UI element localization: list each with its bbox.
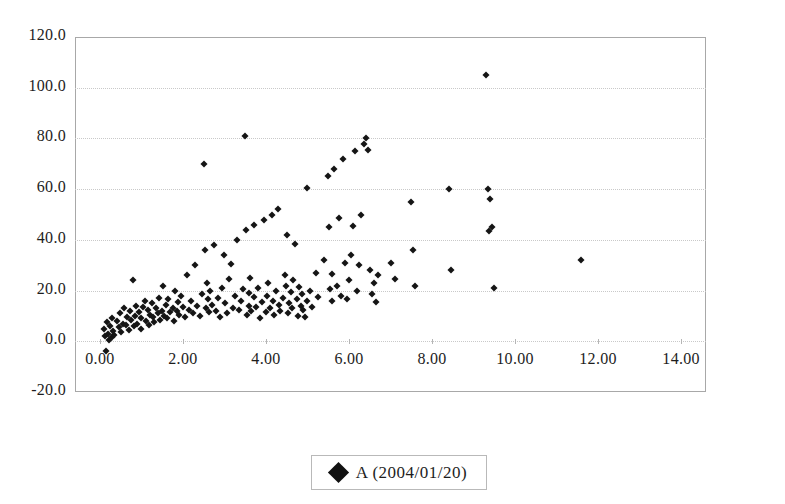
x-tick-mark: [183, 339, 184, 344]
x-tick-mark: [349, 339, 350, 344]
x-tick-mark: [100, 339, 101, 344]
y-tick-label: 60.0: [0, 178, 66, 196]
legend-label: A (2004/01/20): [356, 463, 467, 483]
diamond-marker-icon: [328, 462, 349, 483]
x-tick-label: 10.00: [475, 350, 555, 368]
gridline: [75, 138, 706, 139]
gridline: [75, 341, 706, 342]
gridline: [75, 240, 706, 241]
y-tick-label: 120.0: [0, 26, 66, 44]
scatter-chart: 120.0100.080.060.040.020.00.0-20.0 0.002…: [0, 0, 785, 504]
x-tick-label: 4.00: [226, 350, 306, 368]
gridline: [75, 189, 706, 190]
gridline: [75, 291, 706, 292]
y-tick-label: 0.0: [0, 330, 66, 348]
x-tick-mark: [515, 339, 516, 344]
x-tick-label: 12.00: [558, 350, 638, 368]
gridline: [75, 88, 706, 89]
y-tick-label: 20.0: [0, 280, 66, 298]
x-tick-mark: [266, 339, 267, 344]
x-tick-label: 2.00: [143, 350, 223, 368]
x-tick-label: 14.00: [641, 350, 721, 368]
x-tick-mark: [598, 339, 599, 344]
x-tick-mark: [681, 339, 682, 344]
x-tick-label: 8.00: [392, 350, 472, 368]
plot-area: [75, 37, 706, 392]
chart-legend: A (2004/01/20): [311, 455, 487, 490]
x-tick-label: 6.00: [309, 350, 389, 368]
y-tick-label: -20.0: [0, 381, 66, 399]
y-tick-label: 100.0: [0, 77, 66, 95]
x-tick-mark: [432, 339, 433, 344]
y-tick-label: 40.0: [0, 229, 66, 247]
x-tick-label: 0.00: [60, 350, 140, 368]
y-tick-label: 80.0: [0, 127, 66, 145]
